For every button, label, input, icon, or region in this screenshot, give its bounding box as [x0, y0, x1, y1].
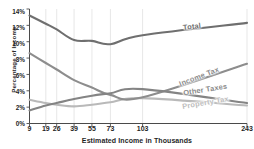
- line-chart: Percentage of Income 14% 12% 10% 8% 6% 4…: [0, 0, 254, 149]
- x-tick-26: 26: [53, 125, 61, 133]
- x-tick-55: 55: [88, 125, 96, 133]
- x-tick-9: 9: [28, 125, 32, 133]
- x-tick-243: 243: [241, 125, 253, 133]
- x-tick-73: 73: [107, 125, 115, 133]
- series-line-income-tax: [30, 53, 248, 99]
- x-tick-19: 19: [42, 125, 50, 133]
- x-axis-title: Estimated Income in Thousands: [28, 137, 246, 144]
- x-tick-103: 103: [137, 125, 149, 133]
- series-line-total: [30, 16, 248, 45]
- x-tick-39: 39: [70, 125, 78, 133]
